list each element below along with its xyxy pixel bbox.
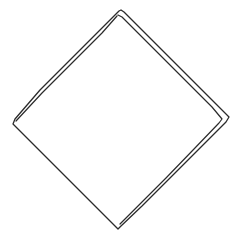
diamond-sketch [0,0,240,239]
background [0,0,240,239]
